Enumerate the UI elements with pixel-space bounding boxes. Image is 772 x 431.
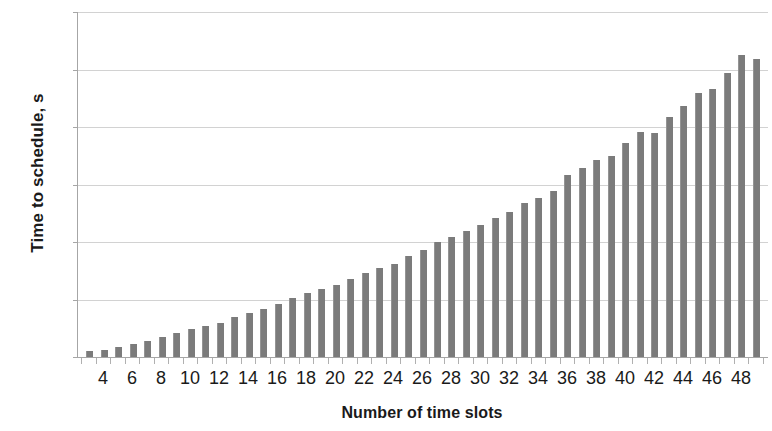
bar bbox=[159, 337, 166, 357]
x-axis: 4681012141618202224262830323436384042444… bbox=[77, 358, 767, 403]
x-tick-mark bbox=[183, 358, 184, 364]
x-tick-mark bbox=[545, 358, 546, 364]
x-tick-mark bbox=[386, 358, 387, 364]
x-tick-mark bbox=[719, 358, 720, 364]
x-tick-mark bbox=[110, 358, 111, 364]
bar bbox=[579, 168, 586, 357]
bar bbox=[289, 298, 296, 357]
x-tick-mark bbox=[241, 358, 242, 364]
bar bbox=[362, 273, 369, 357]
y-gridline bbox=[78, 127, 768, 128]
x-tick-mark bbox=[458, 358, 459, 364]
bar bbox=[173, 333, 180, 357]
x-tick-mark bbox=[270, 358, 271, 364]
bar bbox=[217, 323, 224, 358]
x-tick-mark bbox=[560, 358, 561, 364]
y-gridline bbox=[78, 242, 768, 243]
bar bbox=[304, 293, 311, 357]
x-tick-mark bbox=[154, 358, 155, 364]
bar bbox=[130, 344, 137, 357]
plot-area: 00.511.522.53 bbox=[77, 12, 768, 358]
bar bbox=[506, 212, 513, 357]
y-gridline bbox=[78, 185, 768, 186]
x-tick-label: 48 bbox=[721, 368, 761, 389]
x-tick-mark bbox=[487, 358, 488, 364]
x-tick-mark bbox=[444, 358, 445, 364]
x-tick-mark bbox=[748, 358, 749, 364]
x-tick-mark bbox=[357, 358, 358, 364]
y-tick-mark bbox=[73, 12, 78, 13]
bar bbox=[405, 256, 412, 357]
bar bbox=[420, 250, 427, 357]
bar bbox=[709, 89, 716, 357]
bar bbox=[347, 279, 354, 357]
x-tick-mark bbox=[415, 358, 416, 364]
bar bbox=[622, 143, 629, 357]
bar bbox=[318, 289, 325, 357]
x-tick-mark bbox=[212, 358, 213, 364]
x-tick-mark bbox=[589, 358, 590, 364]
x-tick-mark bbox=[676, 358, 677, 364]
bar bbox=[535, 198, 542, 357]
x-tick-mark bbox=[226, 358, 227, 364]
bar bbox=[753, 59, 760, 357]
y-tick-mark bbox=[73, 185, 78, 186]
x-tick-mark bbox=[603, 358, 604, 364]
x-tick-mark bbox=[618, 358, 619, 364]
y-axis-title: Time to schedule, s bbox=[28, 33, 48, 313]
y-tick-mark bbox=[73, 300, 78, 301]
bar bbox=[376, 268, 383, 357]
bar bbox=[246, 313, 253, 357]
bar bbox=[608, 156, 615, 357]
bar-chart: Time to schedule, s 00.511.522.53 468101… bbox=[0, 0, 772, 431]
bar bbox=[680, 106, 687, 357]
y-gridline bbox=[78, 70, 768, 71]
x-tick-mark bbox=[139, 358, 140, 364]
bar bbox=[101, 350, 108, 357]
x-tick-mark bbox=[647, 358, 648, 364]
y-gridline bbox=[78, 12, 768, 13]
bar bbox=[492, 218, 499, 357]
x-tick-mark bbox=[371, 358, 372, 364]
x-tick-mark bbox=[502, 358, 503, 364]
x-tick-mark bbox=[734, 358, 735, 364]
bar bbox=[564, 175, 571, 357]
bar bbox=[448, 237, 455, 357]
bar bbox=[463, 231, 470, 358]
x-tick-mark bbox=[690, 358, 691, 364]
bar bbox=[651, 133, 658, 357]
x-tick-mark bbox=[284, 358, 285, 364]
bar bbox=[434, 242, 441, 357]
x-tick-mark bbox=[516, 358, 517, 364]
bar bbox=[550, 191, 557, 357]
x-tick-mark bbox=[342, 358, 343, 364]
x-tick-mark bbox=[705, 358, 706, 364]
y-tick-mark bbox=[73, 127, 78, 128]
bar bbox=[521, 203, 528, 357]
bar bbox=[260, 309, 267, 357]
y-tick-mark bbox=[73, 242, 78, 243]
bar bbox=[637, 132, 644, 357]
bar bbox=[391, 264, 398, 357]
x-tick-mark bbox=[531, 358, 532, 364]
y-tick-mark bbox=[73, 70, 78, 71]
x-tick-mark bbox=[168, 358, 169, 364]
bar bbox=[333, 285, 340, 357]
bar bbox=[666, 117, 673, 357]
bar bbox=[275, 304, 282, 357]
x-tick-mark bbox=[125, 358, 126, 364]
x-axis-title: Number of time slots bbox=[77, 404, 767, 422]
x-tick-mark bbox=[328, 358, 329, 364]
x-tick-mark bbox=[299, 358, 300, 364]
bar bbox=[231, 317, 238, 357]
bar bbox=[202, 326, 209, 357]
x-tick-mark bbox=[197, 358, 198, 364]
x-tick-mark bbox=[313, 358, 314, 364]
x-tick-mark bbox=[429, 358, 430, 364]
x-tick-mark bbox=[81, 358, 82, 364]
x-tick-mark bbox=[400, 358, 401, 364]
bar bbox=[144, 341, 151, 357]
bar bbox=[724, 73, 731, 357]
bar bbox=[593, 160, 600, 357]
x-tick-mark bbox=[632, 358, 633, 364]
